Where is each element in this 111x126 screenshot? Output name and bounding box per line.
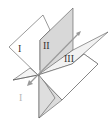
label-plane-II: II	[43, 40, 50, 51]
three-planes-diagram: I II III I	[0, 0, 111, 126]
label-plane-I: I	[18, 43, 21, 54]
label-axis-I: I	[19, 92, 22, 103]
label-plane-III: III	[64, 53, 74, 64]
